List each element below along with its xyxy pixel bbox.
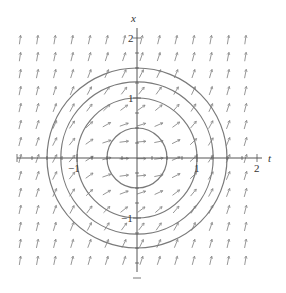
slope-arrow <box>209 222 212 230</box>
slope-arrow <box>157 239 161 247</box>
slope-arrow <box>19 120 22 129</box>
slope-arrow <box>244 35 247 44</box>
slope-arrow <box>123 53 126 62</box>
slope-arrow <box>245 239 248 248</box>
slope-arrow <box>139 240 143 248</box>
slope-arrow <box>227 205 230 214</box>
slope-arrow <box>209 87 212 95</box>
slope-arrow <box>139 87 145 94</box>
slope-arrow <box>138 207 145 212</box>
slope-arrow <box>172 122 179 127</box>
slope-arrow <box>120 123 128 126</box>
slope-arrow <box>244 188 247 197</box>
slope-arrow <box>88 52 91 61</box>
slope-arrow <box>103 122 111 126</box>
slope-arrow <box>210 256 213 265</box>
slope-arrow <box>36 69 39 78</box>
slope-arrow <box>123 35 126 44</box>
x-tick-label: −1 <box>121 212 133 224</box>
slope-arrow <box>71 69 74 78</box>
slope-arrow <box>244 256 247 265</box>
slope-arrow <box>192 239 195 248</box>
slope-arrow <box>102 174 111 177</box>
slope-arrow <box>155 123 163 127</box>
slope-arrow <box>192 256 195 265</box>
slope-arrow <box>210 35 213 44</box>
slope-arrow <box>140 35 143 44</box>
slope-arrow <box>36 171 39 179</box>
slope-arrow <box>54 239 57 248</box>
slope-arrow <box>36 35 39 44</box>
slope-arrow <box>19 52 22 61</box>
slope-arrow <box>19 205 22 214</box>
slope-arrow <box>122 70 126 78</box>
slope-arrow <box>19 222 22 231</box>
slope-arrow <box>54 35 57 44</box>
slope-arrow <box>88 35 91 44</box>
slope-arrow <box>53 138 57 146</box>
slope-arrow <box>244 137 247 146</box>
slope-arrow <box>173 206 179 213</box>
slope-arrow <box>88 70 92 78</box>
slope-arrow <box>19 69 22 78</box>
slope-arrow <box>175 35 178 44</box>
slope-arrow <box>191 121 197 128</box>
slope-arrow <box>87 104 92 111</box>
slope-arrow <box>192 35 195 44</box>
slope-arrow <box>137 191 146 194</box>
slope-arrow <box>86 173 93 178</box>
slope-arrow <box>155 105 162 111</box>
direction-field-plot: x t −11221−1 <box>0 0 286 293</box>
slope-arrow <box>192 70 195 78</box>
slope-arrow <box>71 256 74 265</box>
slope-arrow <box>123 256 126 265</box>
slope-arrow <box>88 239 92 247</box>
slope-arrow <box>19 256 22 265</box>
slope-arrow <box>36 52 39 61</box>
slope-arrow <box>36 239 39 248</box>
slope-arrow <box>86 139 93 144</box>
slope-arrow <box>36 154 39 162</box>
slope-arrow <box>36 120 39 129</box>
slope-arrow <box>36 137 39 145</box>
slope-arrow <box>103 190 111 195</box>
slope-arrow <box>53 205 57 213</box>
slope-arrow <box>121 223 126 230</box>
slope-arrow <box>19 154 22 163</box>
slope-arrow <box>172 190 179 195</box>
slope-arrow <box>71 52 74 61</box>
slope-arrow <box>87 206 92 213</box>
slope-arrow <box>19 103 22 112</box>
slope-arrow <box>19 171 22 180</box>
slope-arrow <box>70 104 74 112</box>
slope-arrow <box>53 222 56 231</box>
slope-arrow <box>191 189 197 196</box>
slope-arrow <box>137 174 146 177</box>
slope-arrow <box>157 256 160 265</box>
slope-arrow <box>36 86 39 95</box>
slope-arrow <box>226 188 230 196</box>
slope-arrow <box>36 256 39 265</box>
slope-arrow <box>192 52 195 61</box>
slope-arrow <box>244 154 247 163</box>
slope-arrow <box>172 157 180 161</box>
slope-arrow <box>53 104 57 112</box>
slope-arrow <box>244 103 247 112</box>
slope-arrow <box>210 52 213 61</box>
slope-arrow <box>19 86 22 95</box>
t-axis-label: t <box>268 152 272 164</box>
slope-arrow <box>155 207 162 213</box>
t-tick-label: 1 <box>194 162 200 174</box>
slope-arrow <box>226 120 230 128</box>
slope-arrow <box>53 155 57 163</box>
slope-arrow <box>69 138 75 145</box>
slope-arrow <box>54 256 57 265</box>
slope-arrow <box>158 35 161 44</box>
slope-arrow <box>227 52 230 61</box>
slope-arrow <box>106 35 109 44</box>
slope-arrow <box>172 174 180 178</box>
slope-arrow <box>102 140 111 143</box>
slope-arrow <box>244 222 247 231</box>
tick-labels: −11221−1 <box>68 32 260 224</box>
slope-arrow <box>120 105 127 110</box>
